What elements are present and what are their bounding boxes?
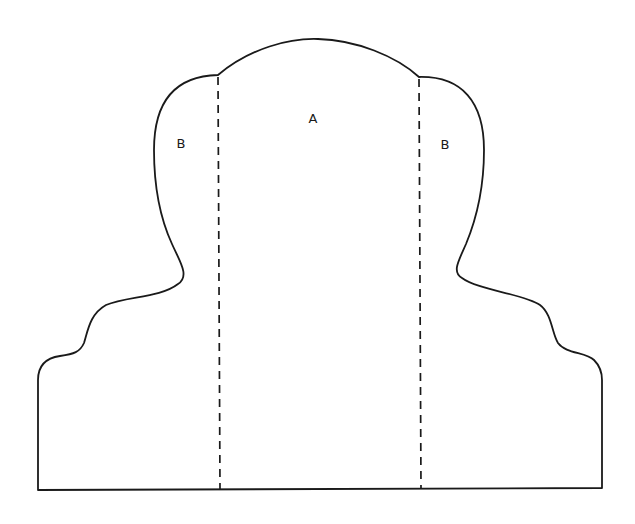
pattern-outline xyxy=(38,39,602,490)
region-label-b-left: B xyxy=(177,137,186,150)
fold-line-left xyxy=(218,77,220,489)
fold-line-right xyxy=(419,79,421,489)
region-label-a: A xyxy=(309,112,318,125)
pattern-diagram xyxy=(0,0,635,524)
region-label-b-right: B xyxy=(441,138,450,151)
